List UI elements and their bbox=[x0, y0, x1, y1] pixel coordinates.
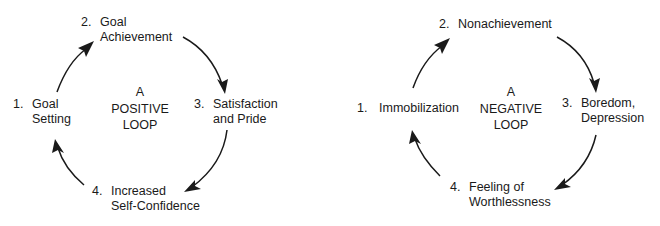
step-label-line: Goal bbox=[100, 15, 126, 29]
title-line: LOOP bbox=[111, 117, 169, 134]
step-number: 1. bbox=[13, 97, 32, 112]
step-number: 2. bbox=[439, 17, 458, 32]
loop-title-negative: A NEGATIVE LOOP bbox=[480, 84, 542, 134]
arrow-worthlessness-to-immobilization bbox=[409, 130, 440, 176]
step-number: 2. bbox=[81, 15, 100, 30]
step-2-nonachievement: 2.Nonachievement bbox=[439, 17, 552, 32]
step-number: 3. bbox=[194, 97, 213, 112]
step-number: 4. bbox=[92, 184, 111, 199]
step-label-line: Depression bbox=[562, 111, 644, 126]
step-label-line: Goal bbox=[32, 97, 58, 111]
arrow-nonachievement-to-boredom bbox=[557, 37, 600, 93]
step-label-line: Boredom, bbox=[581, 96, 635, 110]
step-1-immobilization: 1.Immobilization bbox=[357, 101, 459, 116]
arrow-goal-setting-to-achievement bbox=[57, 41, 94, 92]
step-label-line: and Pride bbox=[194, 112, 278, 127]
step-label-line: Increased bbox=[111, 184, 166, 198]
step-number: 3. bbox=[562, 96, 581, 111]
step-label-line: Worthlessness bbox=[450, 195, 551, 210]
step-4-feeling-of-worthlessness: 4.Feeling of Worthlessness bbox=[450, 180, 551, 210]
step-label-line: Self-Confidence bbox=[92, 199, 200, 214]
arrow-self-confidence-to-goal-setting bbox=[52, 139, 84, 185]
step-number: 1. bbox=[357, 101, 379, 116]
step-4-increased-self-confidence: 4.Increased Self-Confidence bbox=[92, 184, 200, 214]
step-3-satisfaction-and-pride: 3.Satisfaction and Pride bbox=[194, 97, 278, 127]
step-1-goal-setting: 1.Goal Setting bbox=[13, 97, 71, 127]
title-line: POSITIVE bbox=[111, 101, 169, 118]
arrow-achievement-to-satisfaction bbox=[183, 37, 228, 94]
title-line: NEGATIVE bbox=[480, 101, 542, 118]
step-label-line: Satisfaction bbox=[213, 97, 278, 111]
step-3-boredom-depression: 3.Boredom, Depression bbox=[562, 96, 644, 126]
positive-loop-diagram: 2.Goal Achievement 1.Goal Setting A POSI… bbox=[0, 0, 330, 226]
title-line: A bbox=[480, 84, 542, 101]
title-line: LOOP bbox=[480, 117, 542, 134]
step-label-line: Immobilization bbox=[379, 101, 459, 115]
step-label-line: Nonachievement bbox=[458, 17, 552, 31]
step-2-goal-achievement: 2.Goal Achievement bbox=[81, 15, 172, 45]
arrow-satisfaction-to-self-confidence bbox=[184, 130, 227, 192]
title-line: A bbox=[111, 84, 169, 101]
loop-title-positive: A POSITIVE LOOP bbox=[111, 84, 169, 134]
negative-loop-diagram: 2.Nonachievement 1.Immobilization A NEGA… bbox=[330, 0, 660, 226]
step-number: 4. bbox=[450, 180, 469, 195]
arrow-immobilization-to-nonachievement bbox=[413, 38, 450, 88]
step-label-line: Setting bbox=[13, 112, 71, 127]
arrow-boredom-to-worthlessness bbox=[554, 135, 596, 190]
step-label-line: Achievement bbox=[81, 30, 172, 45]
step-label-line: Feeling of bbox=[469, 180, 524, 194]
